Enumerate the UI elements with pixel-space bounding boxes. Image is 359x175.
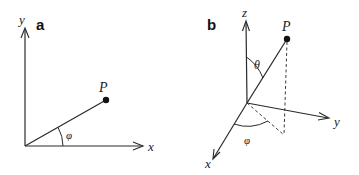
phi-arc — [58, 127, 63, 146]
z-axis — [246, 22, 247, 103]
z-axis-label: z — [241, 5, 247, 20]
x-axis-3d-label: x — [204, 156, 211, 171]
phi-3d-label: φ — [244, 134, 250, 146]
point-p-3d-marker — [284, 36, 290, 42]
phi-label: φ — [66, 129, 72, 141]
x-axis-label: x — [147, 139, 154, 154]
point-p-label: P — [98, 80, 108, 95]
y-axis-label: y — [17, 12, 25, 27]
x-axis-3d — [213, 103, 247, 159]
figure-canvas: a y x P φ b z y x P — [0, 0, 359, 175]
panel-b-label: b — [207, 16, 216, 33]
y-axis-3d — [247, 103, 328, 118]
phi-arc-3d — [234, 121, 268, 126]
vertical-projection-line — [284, 42, 287, 135]
radius-line-3d — [247, 39, 287, 103]
point-p-3d-label: P — [281, 19, 291, 34]
theta-label: θ — [254, 58, 260, 72]
point-p-marker — [103, 97, 109, 103]
y-axis-3d-label: y — [332, 114, 340, 129]
panel-a-label: a — [36, 16, 45, 33]
xy-projection-line — [247, 103, 284, 135]
panel-b: b z y x P θ φ — [204, 5, 340, 171]
panel-a: a y x P φ — [17, 12, 154, 154]
